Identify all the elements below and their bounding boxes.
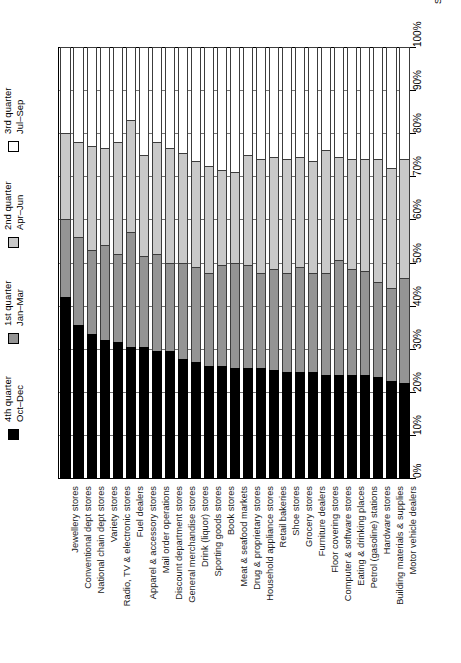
bar-segment-q3 xyxy=(113,47,123,142)
bar-21[interactable] xyxy=(334,47,344,478)
bar-segment-q2 xyxy=(100,148,110,245)
bar-segment-q1 xyxy=(152,254,162,351)
bar-segment-q1 xyxy=(308,273,318,372)
category-label-13: Meat & seafood markets xyxy=(238,486,250,656)
axis-tick-label: 80% xyxy=(412,93,424,133)
bar-1[interactable] xyxy=(73,47,83,478)
category-label-22: Eating & drinking places xyxy=(355,486,367,656)
bar-segment-q4 xyxy=(230,368,240,478)
bar-segment-q2 xyxy=(360,159,370,271)
legend-entry-q1[interactable]: 1st quarterJan–Mar xyxy=(2,248,54,344)
bar-segment-q4 xyxy=(178,359,188,478)
bar-6[interactable] xyxy=(139,47,149,478)
category-label-26: Motor vehicle dealers xyxy=(407,486,419,656)
bar-24[interactable] xyxy=(373,47,383,478)
bar-15[interactable] xyxy=(256,47,266,478)
bar-26[interactable] xyxy=(399,47,409,478)
bar-segment-q1 xyxy=(269,269,279,370)
axis-tick-label: 0% xyxy=(412,438,424,478)
bar-10[interactable] xyxy=(191,47,201,478)
bar-2[interactable] xyxy=(87,47,97,478)
bar-segment-q3 xyxy=(243,47,253,155)
bar-22[interactable] xyxy=(347,47,357,478)
bar-segment-q2 xyxy=(282,159,292,273)
bar-segment-q3 xyxy=(191,47,201,161)
category-label-25: Building materials & supplies xyxy=(394,486,406,656)
bar-segment-q2 xyxy=(334,157,344,260)
category-label-4: Radio, TV & electronic stores xyxy=(121,486,133,656)
bar-segment-q1 xyxy=(295,267,305,373)
category-label-19: Furniture dealers xyxy=(316,486,328,656)
bar-17[interactable] xyxy=(282,47,292,478)
bar-9[interactable] xyxy=(178,47,188,478)
bar-segment-q1 xyxy=(217,265,227,366)
bar-segment-q4 xyxy=(139,347,149,478)
bar-11[interactable] xyxy=(204,47,214,478)
bar-segment-q1 xyxy=(282,273,292,372)
category-label-3: Variety stores xyxy=(108,486,120,656)
bar-segment-q3 xyxy=(217,47,227,170)
bar-segment-q1 xyxy=(73,237,83,325)
bar-segment-q4 xyxy=(386,381,396,478)
bar-segment-q2 xyxy=(139,155,149,256)
bar-segment-q2 xyxy=(73,142,83,237)
bar-23[interactable] xyxy=(360,47,370,478)
chart-page: 4th quarterOct–Dec1st quarterJan–Mar2nd … xyxy=(0,0,461,663)
bar-7[interactable] xyxy=(152,47,162,478)
bar-12[interactable] xyxy=(217,47,227,478)
bar-segment-q1 xyxy=(256,273,266,368)
bar-segment-q4 xyxy=(87,334,97,478)
category-label-8: Discount department stores xyxy=(173,486,185,656)
legend-entry-q2[interactable]: 2nd quarterApr–Jun xyxy=(2,152,54,248)
bar-16[interactable] xyxy=(269,47,279,478)
bar-segment-q3 xyxy=(373,47,383,159)
axis-tick-mark xyxy=(410,47,416,48)
axis-tick-mark xyxy=(410,90,416,91)
plot-baseline xyxy=(58,478,410,479)
bar-segment-q4 xyxy=(308,372,318,478)
category-label-15: Household appliance stores xyxy=(264,486,276,656)
category-label-17: Shoe stores xyxy=(290,486,302,656)
bar-segment-q3 xyxy=(178,47,188,153)
bar-20[interactable] xyxy=(321,47,331,478)
bar-0[interactable] xyxy=(60,47,70,478)
legend-label-q3: 3rd quarterJul–Sep xyxy=(2,38,28,134)
bar-8[interactable] xyxy=(165,47,175,478)
bar-3[interactable] xyxy=(100,47,110,478)
chart-legend: 4th quarterOct–Dec1st quarterJan–Mar2nd … xyxy=(2,40,54,440)
bar-segment-q1 xyxy=(334,260,344,374)
bar-4[interactable] xyxy=(113,47,123,478)
bar-segment-q3 xyxy=(334,47,344,157)
axis-tick-mark xyxy=(410,219,416,220)
bar-segment-q1 xyxy=(113,254,123,342)
bar-25[interactable] xyxy=(386,47,396,478)
bar-segment-q2 xyxy=(87,146,97,249)
bar-18[interactable] xyxy=(295,47,305,478)
bar-segment-q1 xyxy=(321,273,331,374)
legend-swatch-q1 xyxy=(8,333,19,344)
bar-segment-q2 xyxy=(256,159,266,273)
bar-segment-q3 xyxy=(360,47,370,159)
bar-14[interactable] xyxy=(243,47,253,478)
bar-segment-q2 xyxy=(269,157,279,269)
bar-segment-q3 xyxy=(87,47,97,146)
legend-entry-q3[interactable]: 3rd quarterJul–Sep xyxy=(2,56,54,152)
axis-tick-label: 20% xyxy=(412,352,424,392)
legend-entry-q4[interactable]: 4th quarterOct–Dec xyxy=(2,344,54,440)
bar-13[interactable] xyxy=(230,47,240,478)
bar-segment-q4 xyxy=(334,375,344,478)
bar-segment-q2 xyxy=(347,159,357,269)
bar-segment-q2 xyxy=(230,172,240,263)
bar-segment-q2 xyxy=(243,155,253,265)
bar-19[interactable] xyxy=(308,47,318,478)
bar-segment-q1 xyxy=(178,263,188,360)
legend-swatch-q4 xyxy=(8,429,19,440)
bar-segment-q3 xyxy=(230,47,240,172)
bar-segment-q1 xyxy=(204,273,214,366)
bar-segment-q3 xyxy=(100,47,110,148)
bar-segment-q1 xyxy=(139,256,149,347)
bar-5[interactable] xyxy=(126,47,136,478)
bar-segment-q3 xyxy=(282,47,292,159)
axis-tick-label: 50% xyxy=(412,223,424,263)
bar-segment-q2 xyxy=(308,161,318,273)
